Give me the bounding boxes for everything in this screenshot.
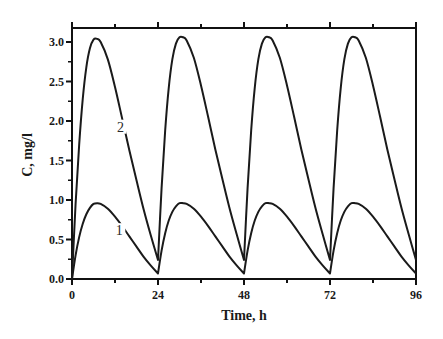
y-tick-label: 3.0 (49, 35, 64, 49)
y-tick-label: 2.5 (49, 75, 64, 89)
y-tick-label: 0.0 (49, 272, 64, 286)
concentration-curves (72, 37, 416, 279)
series-2-label: 2 (117, 120, 124, 135)
y-tick-label: 2.0 (49, 114, 64, 128)
series-2-line (72, 37, 416, 279)
x-tick-label: 48 (238, 288, 250, 302)
x-axis-title: Time, h (221, 308, 267, 323)
x-tick-label: 96 (410, 288, 422, 302)
x-tick-label: 0 (69, 288, 75, 302)
y-tick-label: 0.5 (49, 233, 64, 247)
y-axis-title: C, mg/l (20, 133, 35, 177)
curve-labels: 12 (113, 120, 126, 238)
y-axis-ticks: 0.00.51.01.52.02.53.0 (49, 35, 72, 286)
x-tick-label: 24 (152, 288, 164, 302)
series-1-label: 1 (116, 223, 123, 238)
y-tick-label: 1.0 (49, 193, 64, 207)
pharmacokinetic-chart: 024487296 0.00.51.01.52.02.53.0 12 Time,… (0, 0, 443, 339)
y-tick-label: 1.5 (49, 154, 64, 168)
x-tick-label: 72 (324, 288, 336, 302)
